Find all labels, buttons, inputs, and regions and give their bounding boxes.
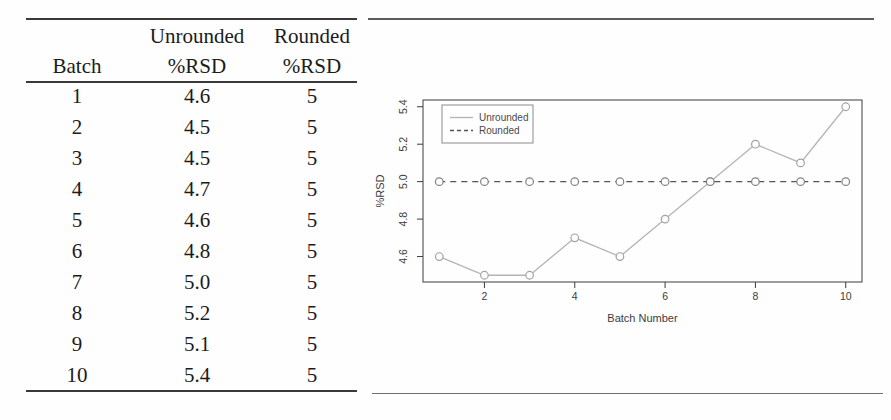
y-tick-label: 4.8 [397,212,409,227]
rsd-table: Unrounded Rounded Batch %RSD %RSD 1 4.6 … [27,21,357,391]
rounded-cell: 5 [267,205,357,236]
batch-cell: 9 [27,329,127,360]
x-tick-label: 10 [840,290,852,302]
unrounded-cell: 4.7 [127,174,267,205]
legend-unrounded-label: Unrounded [479,112,528,123]
rounded-cell: 5 [267,267,357,298]
legend-box [442,105,533,143]
x-tick-label: 2 [482,290,488,302]
table-row: 3 4.5 5 [27,143,357,174]
y-tick-label: 4.6 [397,249,409,264]
unrounded-cell: 4.8 [127,236,267,267]
table-row: 5 4.6 5 [27,205,357,236]
table-header-row-1: Unrounded Rounded [27,21,357,51]
figure-bottom-rule [372,393,883,394]
x-tick-label: 6 [662,290,668,302]
x-axis-title: Batch Number [607,312,678,324]
rounded-cell: 5 [267,174,357,205]
rounded-cell: 5 [267,360,357,391]
header-spacer [27,21,127,51]
series-rounded-marker [797,178,805,186]
unrounded-cell: 4.6 [127,81,267,112]
scanned-page: Unrounded Rounded Batch %RSD %RSD 1 4.6 … [0,0,891,420]
series-unrounded-marker [571,234,579,242]
y-tick-label: 5.2 [397,137,409,152]
unrounded-cell: 5.0 [127,267,267,298]
rounded-cell: 5 [267,298,357,329]
batch-cell: 2 [27,112,127,143]
series-unrounded-marker [661,215,669,223]
series-rounded-marker [481,178,489,186]
x-tick-label: 4 [572,290,578,302]
series-unrounded-marker [435,253,443,261]
series-rounded-marker [616,178,624,186]
batch-cell: 5 [27,205,127,236]
header-unrounded-rsd: %RSD [127,51,267,81]
series-unrounded-marker [797,159,805,167]
rounded-cell: 5 [267,329,357,360]
header-rounded-rsd: %RSD [267,51,357,81]
table-row: 7 5.0 5 [27,267,357,298]
legend-rounded-label: Rounded [479,125,520,136]
table-row: 8 5.2 5 [27,298,357,329]
series-rounded-marker [661,178,669,186]
series-unrounded-marker [481,271,489,279]
series-rounded-marker [526,178,534,186]
unrounded-cell: 4.5 [127,112,267,143]
rounded-cell: 5 [267,236,357,267]
x-tick-label: 8 [752,290,758,302]
header-rounded: Rounded [267,21,357,51]
unrounded-cell: 5.2 [127,298,267,329]
rsd-line-chart: 4.64.85.05.25.4246810%RSDBatch NumberUnr… [370,60,891,360]
series-rounded-marker [571,178,579,186]
series-rounded-marker [842,178,850,186]
unrounded-cell: 5.1 [127,329,267,360]
series-unrounded-marker [842,103,850,111]
series-rounded-marker [752,178,760,186]
series-unrounded-marker [526,271,534,279]
table-row: 10 5.4 5 [27,360,357,391]
header-unrounded: Unrounded [127,21,267,51]
batch-cell: 8 [27,298,127,329]
table-row: 6 4.8 5 [27,236,357,267]
table-top-rule [26,18,357,20]
table-header-row-2: Batch %RSD %RSD [27,51,357,81]
unrounded-cell: 4.6 [127,205,267,236]
header-batch: Batch [27,51,127,81]
rounded-cell: 5 [267,112,357,143]
rounded-cell: 5 [267,81,357,112]
y-tick-label: 5.4 [397,99,409,114]
y-axis-title: %RSD [374,174,386,207]
y-tick-label: 5.0 [397,174,409,189]
unrounded-cell: 4.5 [127,143,267,174]
table-row: 9 5.1 5 [27,329,357,360]
series-rounded-marker [706,178,714,186]
batch-cell: 10 [27,360,127,391]
table-row: 4 4.7 5 [27,174,357,205]
batch-cell: 6 [27,236,127,267]
series-unrounded-marker [616,253,624,261]
table-row: 1 4.6 5 [27,81,357,112]
rounded-cell: 5 [267,143,357,174]
figure-top-rule [368,18,874,20]
rsd-chart-figure: 4.64.85.05.25.4246810%RSDBatch NumberUnr… [370,60,891,360]
batch-cell: 7 [27,267,127,298]
batch-cell: 3 [27,143,127,174]
batch-cell: 4 [27,174,127,205]
unrounded-cell: 5.4 [127,360,267,391]
table-row: 2 4.5 5 [27,112,357,143]
batch-cell: 1 [27,81,127,112]
series-rounded-marker [435,178,443,186]
series-unrounded-marker [752,140,760,148]
